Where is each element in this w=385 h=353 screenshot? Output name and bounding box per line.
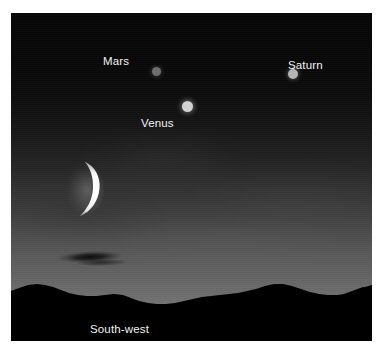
planet-dot-venus xyxy=(182,101,193,112)
horizon-ridge-silhouette xyxy=(11,271,372,341)
crescent-moon xyxy=(58,159,102,219)
planet-label-mars: Mars xyxy=(103,55,129,68)
sky-photograph: Mars Venus Saturn South-west xyxy=(11,13,372,341)
photo-frame: Mars Venus Saturn South-west xyxy=(0,0,385,353)
planet-label-saturn: Saturn xyxy=(288,59,323,72)
compass-direction-label: South-west xyxy=(90,323,149,336)
planet-label-venus: Venus xyxy=(141,117,174,130)
planet-dot-mars xyxy=(152,67,161,76)
